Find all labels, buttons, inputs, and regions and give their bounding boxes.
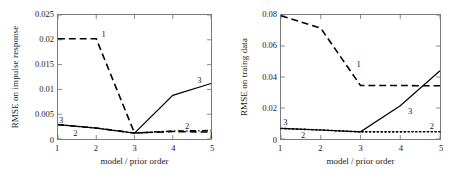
curve-tag-1: 1 <box>356 59 360 69</box>
y-tick-label: 0.02 <box>12 34 54 44</box>
series-line-3 <box>281 71 440 132</box>
curve-tag-2: 2 <box>73 128 77 138</box>
x-tick-label: 1 <box>272 143 288 153</box>
y-tick-label: 0.02 <box>235 103 277 113</box>
x-tick-label: 3 <box>127 143 143 153</box>
chart-panel-left: RMSE on impulse response model / prior o… <box>0 0 229 183</box>
x-axis-label-left: model / prior order <box>57 156 212 166</box>
curve-tag-1: 1 <box>209 130 213 140</box>
plot-lines-right <box>281 15 440 139</box>
x-axis-label-right: model / prior order <box>280 156 441 166</box>
x-tick-label: 3 <box>353 143 369 153</box>
y-tick-label: 0 <box>12 135 54 145</box>
plot-area-right <box>280 14 441 140</box>
x-tick-label: 2 <box>312 143 328 153</box>
y-tick-label: 0 <box>235 135 277 145</box>
curve-tag-2: 2 <box>430 121 434 131</box>
curve-tag-1: 1 <box>102 29 106 39</box>
y-tick-label: 0.015 <box>12 59 54 69</box>
curve-tag-3: 3 <box>283 117 287 127</box>
curve-tag-3: 3 <box>59 115 63 125</box>
x-tick-label: 4 <box>393 143 409 153</box>
x-tick-label: 2 <box>88 143 104 153</box>
y-tick-label: 0.06 <box>235 40 277 50</box>
x-tick-label: 5 <box>204 143 220 153</box>
curve-tag-3: 3 <box>408 106 412 116</box>
curve-tag-2: 2 <box>185 121 189 131</box>
x-tick-label: 5 <box>433 143 449 153</box>
y-tick-label: 0.005 <box>12 109 54 119</box>
x-tick-label: 4 <box>165 143 181 153</box>
figure-container: RMSE on impulse response model / prior o… <box>0 0 459 183</box>
series-line-1 <box>281 16 440 86</box>
y-tick-label: 0.08 <box>235 9 277 19</box>
curve-tag-3: 3 <box>197 75 201 85</box>
chart-panel-right: RMSE on traing data model / prior order … <box>229 0 458 183</box>
y-tick-label: 0.01 <box>12 84 54 94</box>
series-line-1 <box>58 39 211 133</box>
x-tick-label: 1 <box>49 143 65 153</box>
curve-tag-2: 2 <box>301 130 305 140</box>
y-tick-label: 0.025 <box>12 9 54 19</box>
y-tick-label: 0.04 <box>235 72 277 82</box>
